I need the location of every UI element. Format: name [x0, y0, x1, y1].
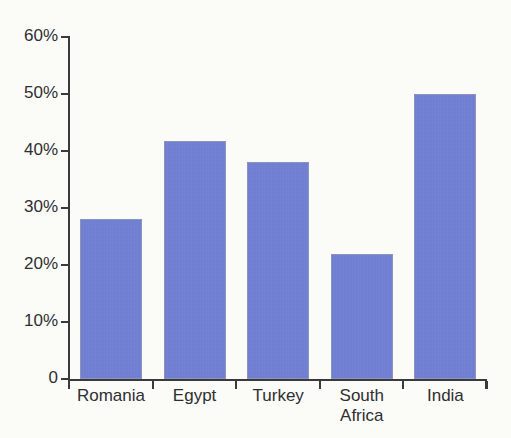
bar	[331, 254, 393, 379]
y-axis-tick-label: 0	[0, 368, 58, 388]
y-axis-tick-label-text: 0	[2, 368, 58, 388]
x-axis-category-label: India	[400, 386, 490, 406]
y-axis-tick-label-text: 50%	[2, 83, 58, 103]
y-axis-tick	[61, 207, 69, 209]
bar	[414, 94, 476, 379]
y-axis-tick-label: 60%	[0, 26, 58, 46]
bar	[80, 219, 142, 379]
y-axis-tick-label-text: 30%	[2, 197, 58, 217]
y-axis-tick-label: 40%	[0, 140, 58, 160]
y-axis-tick	[61, 150, 69, 152]
x-axis-line	[68, 379, 487, 381]
bar	[164, 141, 226, 379]
bar-chart: 010%20%30%40%50%60% RomaniaEgyptTurkeySo…	[0, 0, 511, 438]
bar	[247, 162, 309, 379]
y-axis-tick-label: 30%	[0, 197, 58, 217]
y-axis-tick	[61, 264, 69, 266]
x-axis-category-label: Turkey	[233, 386, 323, 406]
y-axis-tick-label-text: 10%	[2, 311, 58, 331]
y-axis-tick-label-text: 20%	[2, 254, 58, 274]
x-axis-category-label: Egypt	[150, 386, 240, 406]
y-axis-tick-label: 50%	[0, 83, 58, 103]
y-axis-tick-label: 20%	[0, 254, 58, 274]
y-axis-tick-label-text: 60%	[2, 26, 58, 46]
y-axis-tick	[61, 93, 69, 95]
y-axis-tick-label: 10%	[0, 311, 58, 331]
y-axis-tick	[61, 321, 69, 323]
y-axis-tick-label-text: 40%	[2, 140, 58, 160]
y-axis-tick	[61, 36, 69, 38]
x-axis-category-label: Romania	[66, 386, 156, 406]
x-axis-category-label: South Africa	[317, 386, 407, 426]
